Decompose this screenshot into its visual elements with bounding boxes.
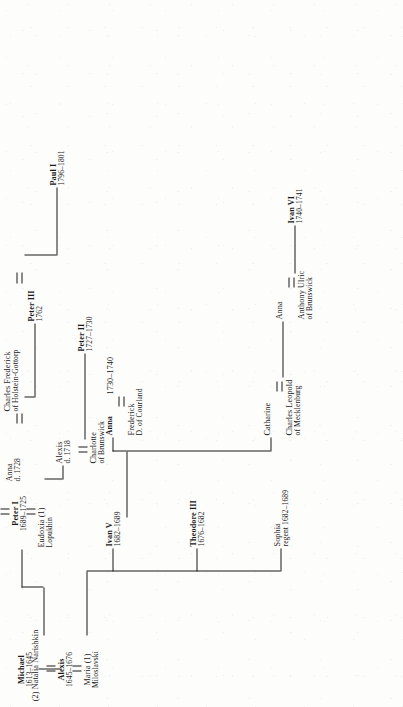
node-alexis-son: Alexis d. 1718	[54, 403, 72, 463]
scanned-page: Michael 1613–1645 Maria (1) Miloslavski …	[0, 0, 403, 707]
node-charlotte-brunswick: Charlotte of Brunswick	[88, 379, 106, 463]
tick-catharine	[270, 437, 271, 451]
node-natalia-narishkin: (2) Natalia Narishkin	[30, 611, 39, 707]
marriage-bar-peter3-catherine2	[16, 272, 22, 283]
node-natalia-name: (2) Natalia Narishkin	[30, 611, 39, 707]
line-peter3-down	[24, 254, 56, 255]
node-anthony-ulric-origin: of Brunswick	[305, 211, 314, 319]
node-charles-leopold-origin: of Mecklenburg	[293, 325, 302, 435]
tick-peter1	[21, 549, 22, 587]
node-alexis-son-dates: d. 1718	[63, 403, 72, 463]
node-sophia: Sophia regent 1682–1689	[272, 434, 290, 546]
node-anna-holstein-dates: d. 1728	[13, 425, 22, 481]
tick-sophia	[280, 548, 281, 571]
node-peter2-dates: 1727–1730	[85, 271, 94, 351]
genealogy-chart: Michael 1613–1645 Maria (1) Miloslavski …	[0, 0, 403, 707]
node-peter3-dates: 1762	[35, 259, 44, 321]
node-ivan5: Ivan V 1682–1689	[104, 456, 122, 546]
node-frederick-courland: Frederick D. of Courland	[126, 335, 144, 435]
line-to-anna-brunswick	[282, 321, 283, 377]
spine-natalia-vertical	[21, 586, 43, 587]
tick-anna-courland	[112, 437, 113, 451]
tick-theodore3	[196, 548, 197, 571]
node-peter2: Peter II 1727–1730	[76, 271, 94, 351]
node-sophia-dates: regent 1682–1689	[281, 434, 290, 546]
node-catharine-mecklenburg: Catharine	[262, 363, 271, 435]
marriage-bar-peter1-martha	[0, 508, 9, 514]
marriage-bar-charlotte-alexis	[78, 446, 87, 452]
marriage-bar-anna-charlesfred	[16, 413, 22, 423]
node-maria-miloslavski: Maria (1) Miloslavski	[82, 627, 100, 707]
node-ivan5-dates: 1682–1689	[113, 456, 122, 546]
marriage-bar-anna-frederick	[118, 396, 124, 406]
spine-maria-children	[86, 571, 87, 635]
node-ivan6: Ivan VI 1740–1741	[286, 149, 304, 223]
spine-natalia-children	[43, 587, 44, 635]
spine-ivan5-children	[126, 451, 127, 517]
node-anna-courland-dates: 1730–1740	[105, 334, 114, 394]
node-charles-frederick: Charles Frederick of Holstein-Gottorp	[2, 291, 20, 411]
node-anthony-ulric: Anthony Ulric of Brunswick	[296, 211, 314, 319]
tick-alexis-son	[62, 465, 63, 479]
line-to-ivan6	[294, 225, 295, 273]
node-charles-frederick-origin: of Holstein-Gottorp	[11, 291, 20, 411]
node-anna-brunswick: Anna	[274, 261, 283, 319]
node-theodore3: Theodore III 1676–1682	[188, 456, 206, 546]
node-maria-surname: Miloslavski	[91, 627, 100, 707]
node-paul1: Paul I 1796–1801	[48, 113, 66, 185]
node-anna-brunswick-name: Anna	[274, 261, 283, 319]
marriage-bar-catharine-leopold	[276, 381, 282, 391]
node-theodore3-dates: 1676–1682	[197, 456, 206, 546]
rotation-wrapper: Michael 1613–1645 Maria (1) Miloslavski …	[0, 0, 403, 707]
marriage-bar-anna-anthony	[288, 277, 294, 287]
node-peter1: Peter I 1689–1725	[10, 481, 28, 545]
node-anna-courland-dates-wrap: 1730–1740	[105, 334, 114, 394]
node-paul1-dates: 1796–1801	[57, 113, 66, 185]
line-peter1-to-alexis-son	[44, 478, 62, 479]
spine-maria-vertical	[86, 570, 280, 571]
line-to-peter3	[34, 323, 35, 397]
node-alexis-dates: 1645–1676	[65, 637, 74, 701]
node-alexis: Alexis 1645–1676	[56, 637, 74, 701]
node-anna-holstein: Anna d. 1728	[4, 425, 22, 481]
node-catharine-name: Catharine	[262, 363, 271, 435]
node-peter3: Peter III 1762	[26, 259, 44, 321]
node-eudoxia-lopukhin: Eudoxia (1) Lopukhin	[36, 471, 54, 547]
spine-ivan5-vertical-up	[112, 450, 126, 451]
line-to-paul1	[56, 187, 57, 255]
node-eudoxia-surname: Lopukhin	[45, 471, 54, 547]
line-to-peter2	[84, 353, 85, 439]
node-ivan6-dates: 1740–1741	[295, 149, 304, 223]
node-charles-leopold: Charles Leopold of Mecklenburg	[284, 325, 302, 435]
marriage-bar-alexis-natalia	[46, 665, 55, 671]
node-peter1-dates: 1689–1725	[19, 481, 28, 545]
line-anna-down	[24, 396, 34, 397]
spine-ivan5-vertical	[126, 450, 270, 451]
tick-ivan5	[112, 548, 113, 571]
node-frederick-title: D. of Courland	[135, 335, 144, 435]
